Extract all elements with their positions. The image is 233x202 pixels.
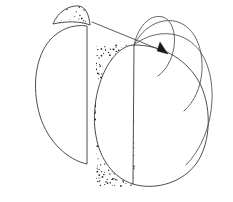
stipple-dot [110,182,111,183]
stipple-dot [98,169,99,170]
stipple-dot [120,185,122,187]
stipple-dot [93,154,95,156]
stipple-dot [91,135,93,137]
stipple-dot [98,57,99,58]
stipple-dot [92,107,94,109]
stipple-dot [116,51,117,52]
left-half-body-outline [35,26,87,164]
stipple-dot [93,124,95,126]
stipple-dot [64,24,66,26]
stipple-dot [93,60,94,61]
stipple-dot [93,118,94,119]
stipple-dot [102,66,103,67]
stipple-dot [115,179,116,180]
stipple-dot [92,166,94,168]
stipple-dot [101,55,103,57]
figure-root [0,0,233,202]
stipple-dot [92,181,93,182]
stipple-dot [125,45,126,46]
stipple-dot [94,86,96,88]
stipple-dot [101,171,102,172]
stipple-dot [79,6,81,8]
stipple-dot [121,47,122,48]
stipple-dot [96,65,97,66]
stipple-dot [92,111,93,112]
stipple-dot [92,55,93,56]
stipple-dot [94,68,95,69]
stipple-dot [92,102,94,104]
stipple-dot [123,181,124,182]
stipple-dot [91,67,92,68]
stipple-dot [96,171,98,173]
stipple-dot [101,48,103,50]
stipple-dot [97,49,98,50]
stipple-dot [97,181,99,183]
stipple-dot [104,184,105,185]
stipple-dot [108,170,109,171]
stipple-dot [112,171,113,172]
stipple-dot [95,57,96,58]
stipple-dot [91,142,93,144]
stipple-dot [94,137,95,138]
stipple-dot [99,64,100,65]
stipple-dot [92,153,94,155]
stipple-dot [93,141,94,142]
stipple-dot [74,16,75,17]
stipple-dot [93,96,94,97]
stipple-dot [95,181,96,182]
stipple-dot [94,161,96,163]
stipple-dot [92,67,93,68]
stipple-dot [118,50,120,52]
stipple-dot [93,90,94,91]
stipple-dot [84,5,86,7]
stipple-dot [105,50,106,51]
stipple-dot [122,180,123,181]
stipple-dot [107,182,109,184]
stipple-dot [108,52,109,53]
stipple-dot [96,46,97,47]
stipple-dot [66,9,67,10]
stipple-dot [110,183,111,184]
stipple-dot [96,178,97,179]
stipple-dot [98,174,100,176]
stipple-dot [53,11,55,13]
detached-rind-sliver-group [51,5,90,25]
stipple-dot [97,165,98,166]
stipple-dot [69,19,70,20]
stipple-dot [93,72,95,74]
stipple-dot [96,145,98,147]
stipple-dot [99,66,100,67]
stipple-dot [104,172,105,173]
stipple-dot [92,116,94,118]
stipple-dot [93,182,95,184]
stipple-dot [99,180,101,182]
stipple-dot [92,109,93,110]
stipple-dot [58,9,59,10]
stipple-dot [51,7,53,9]
stipple-dot [110,48,111,49]
stipple-dot [96,55,97,56]
stipple-dot [111,179,112,180]
stipple-dot [113,173,114,174]
stipple-dot [109,54,111,56]
stipple-dot [95,63,97,65]
stipple-dot [98,78,99,79]
stipple-dot [102,176,104,178]
stipple-dot [94,78,95,79]
stipple-dot [78,19,79,20]
left-half-body-group [35,26,87,164]
stipple-dot [61,20,62,21]
stipple-dot [93,184,94,185]
stipple-dot [106,179,107,180]
stipple-dot [113,49,115,51]
stipple-dot [94,112,96,114]
stipple-dot [100,164,101,165]
right-whole-body-outline [94,45,208,186]
stipple-dot [95,68,97,70]
stipple-dot [116,47,117,48]
stipple-dot [92,89,93,90]
stipple-dot [53,12,54,13]
stipple-dot [115,53,116,54]
stipple-dot [104,163,105,164]
stipple-dot [104,46,105,47]
